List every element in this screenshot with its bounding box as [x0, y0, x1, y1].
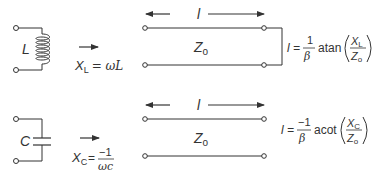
formula-inner-denominator-sub: o [354, 137, 359, 146]
inductor-length-formula: l = 1 β atan XL Zo [287, 34, 371, 64]
formula-fraction-numerator: −1 [298, 116, 311, 128]
formula-paren-left [341, 117, 345, 144]
formula-lhs: l = [281, 123, 294, 137]
open-transmission-line: l Zo [143, 97, 267, 158]
formula-fraction-numerator: 1 [307, 34, 313, 46]
formula-paren-left [345, 35, 349, 62]
inductor-terminal-top [14, 26, 19, 31]
svg-text:XC: XC [71, 150, 88, 167]
capacitor-circuit: C [14, 117, 52, 164]
formula-paren-right [363, 117, 367, 144]
reactance-equals: = [88, 151, 95, 165]
svg-text:Zo: Zo [193, 39, 209, 57]
line-terminal [143, 26, 148, 31]
formula-fraction-denominator: β [298, 132, 305, 145]
svg-text:Zo: Zo [346, 132, 359, 146]
inductor-circuit: L [14, 26, 50, 73]
line-terminal [143, 63, 148, 68]
length-label: l [197, 97, 201, 113]
svg-text:XL: XL [350, 35, 363, 49]
impedance-symbol: Z [193, 130, 203, 146]
capacitor-plates-icon [33, 138, 51, 145]
inductor-reactance: XL= ωL [74, 47, 123, 75]
line-terminal [262, 26, 267, 31]
short-circuit-termination [266, 28, 282, 65]
diagram-canvas: L XL= ωL l Zo l = 1 β atan XL Zo [0, 0, 376, 175]
shorted-transmission-line: l Zo [143, 6, 282, 67]
svg-text:Zo: Zo [193, 130, 209, 148]
formula-function: atan [318, 41, 341, 55]
capacitor-reactance: XC = −1 ωc [71, 138, 114, 173]
line-terminal [143, 154, 148, 159]
line-terminal [143, 117, 148, 122]
reactance-numerator: −1 [99, 146, 112, 158]
line-terminal [262, 117, 267, 122]
inductor-coil-icon [36, 34, 50, 64]
formula-paren-right [367, 35, 371, 62]
reactance-expression: = ωL [92, 59, 124, 73]
line-terminal [262, 154, 267, 159]
formula-fraction-denominator: β [303, 50, 310, 63]
impedance-symbol: Z [193, 39, 203, 55]
inductor-terminal-bottom [14, 68, 19, 73]
svg-text:XL= ωL: XL= ωL [74, 58, 123, 75]
formula-lhs: l = [287, 41, 300, 55]
formula-function: acot [314, 123, 337, 137]
length-label: l [197, 6, 201, 22]
capacitor-label: C [20, 133, 31, 149]
svg-text:XC: XC [346, 117, 360, 131]
reactance-subscript: L [84, 65, 89, 75]
reactance-denominator: ωc [98, 160, 113, 173]
impedance-subscript: o [203, 137, 209, 148]
svg-text:Zo: Zo [350, 50, 363, 64]
line-terminal [262, 63, 267, 68]
inductor-label: L [22, 41, 30, 57]
reactance-subscript: C [81, 157, 88, 167]
impedance-subscript: o [203, 46, 209, 57]
capacitor-length-formula: l = −1 β acot XC Zo [281, 116, 367, 146]
formula-inner-denominator-sub: o [358, 55, 363, 64]
capacitor-terminal-top [14, 117, 19, 122]
capacitor-terminal-bottom [14, 159, 19, 164]
